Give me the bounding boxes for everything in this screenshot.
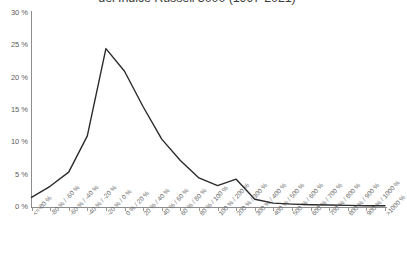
data-series-line bbox=[32, 49, 386, 206]
